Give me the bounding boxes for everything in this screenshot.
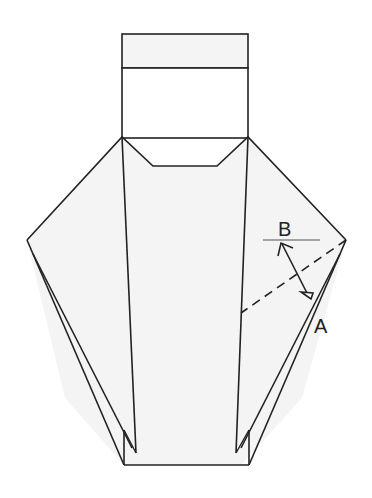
label-A: A (314, 315, 328, 337)
top-square (122, 68, 248, 138)
paper-fill (27, 137, 346, 465)
main-body (27, 137, 346, 465)
top-band (122, 34, 248, 68)
top-flap (122, 34, 248, 138)
label-B: B (278, 218, 291, 240)
origami-diagram: B A (0, 0, 372, 498)
